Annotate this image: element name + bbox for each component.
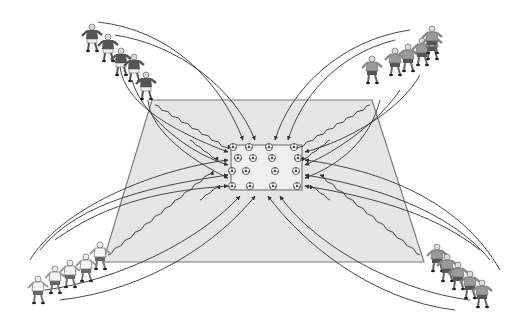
group-bottom-left [28, 242, 110, 304]
drill-diagram [0, 0, 523, 328]
center-zone [231, 145, 302, 190]
group-top-right [362, 26, 442, 84]
